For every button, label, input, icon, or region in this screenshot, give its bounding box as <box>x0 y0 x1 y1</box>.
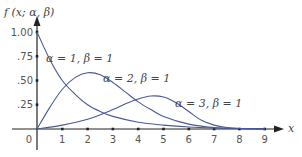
y-axis-title: f (x; α, β) <box>3 6 54 19</box>
y-tick-mark <box>36 79 39 82</box>
x-tick-label: 4 <box>135 134 141 145</box>
x-axis-title: x <box>288 122 295 135</box>
curve-label-1: α = 1, β = 1 <box>46 52 113 65</box>
y-tick-label: .75 <box>17 51 33 62</box>
chart: 0123456789.25.50.751.00 f (x; α, β)xα = … <box>0 0 302 157</box>
x-tick-label: 3 <box>110 134 116 145</box>
x-tick-mark <box>86 128 89 131</box>
x-tick-mark <box>112 128 115 131</box>
y-tick-label: .50 <box>17 75 33 86</box>
labels: f (x; α, β)xα = 1, β = 1α = 2, β = 1α = … <box>3 6 295 135</box>
x-tick-label: 6 <box>186 134 192 145</box>
x-tick-label: 5 <box>160 134 166 145</box>
x-tick-mark <box>61 128 64 131</box>
x-tick-label: 1 <box>59 134 65 145</box>
x-tick-label: 0 <box>26 134 32 145</box>
y-tick-label: 1.00 <box>11 27 33 38</box>
curve-label-2: α = 2, β = 1 <box>103 72 170 85</box>
x-tick-label: 2 <box>84 134 90 145</box>
x-tick-label: 9 <box>262 134 268 145</box>
y-tick-label: .25 <box>17 99 33 110</box>
y-tick-mark <box>36 103 39 106</box>
curve-label-3: α = 3, β = 1 <box>175 97 242 110</box>
x-tick-mark <box>188 128 191 131</box>
x-tick-mark <box>162 128 165 131</box>
x-axis-arrow-icon <box>274 126 284 133</box>
y-tick-mark <box>36 55 39 58</box>
x-tick-mark <box>137 128 140 131</box>
x-tick-label: 7 <box>211 134 217 145</box>
x-tick-label: 8 <box>236 134 242 145</box>
